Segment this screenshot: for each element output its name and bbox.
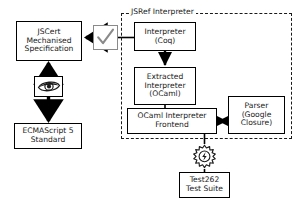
diagram-canvas: JSRef Interpreter (0, 0, 299, 210)
gear-icon (192, 144, 217, 169)
jsref-interpreter-group-label: JSRef Interpreter (129, 7, 196, 16)
node-interpreter-coq[interactable]: Interpreter (Coq) (134, 22, 196, 51)
node-parser-google-closure[interactable]: Parser (Google Closure) (228, 96, 285, 134)
node-test262-test-suite[interactable]: Test262 Test Suite (179, 172, 230, 198)
checkmark-glyph (95, 27, 116, 48)
node-label: Interpreter (Coq) (135, 28, 195, 46)
eye-glyph (37, 79, 61, 94)
checkmark-icon (93, 25, 118, 50)
node-label: OCaml Interpreter Frontend (128, 112, 216, 130)
node-label: Parser (Google Closure) (229, 102, 284, 128)
node-ecmascript-5-standard[interactable]: ECMAScript 5 Standard (14, 123, 82, 149)
node-extracted-interpreter-ocaml[interactable]: Extracted Interpreter (OCaml) (134, 67, 196, 105)
node-label: JSCert Mechanised Specification (17, 28, 81, 54)
gear-glyph (192, 144, 217, 169)
node-label: Test262 Test Suite (180, 176, 229, 194)
node-ocaml-interpreter-frontend[interactable]: OCaml Interpreter Frontend (127, 108, 217, 134)
node-jscert-mechanised-specification[interactable]: JSCert Mechanised Specification (16, 21, 82, 61)
node-label: Extracted Interpreter (OCaml) (135, 73, 195, 99)
eye-icon (34, 76, 63, 97)
node-label: ECMAScript 5 Standard (15, 127, 81, 145)
